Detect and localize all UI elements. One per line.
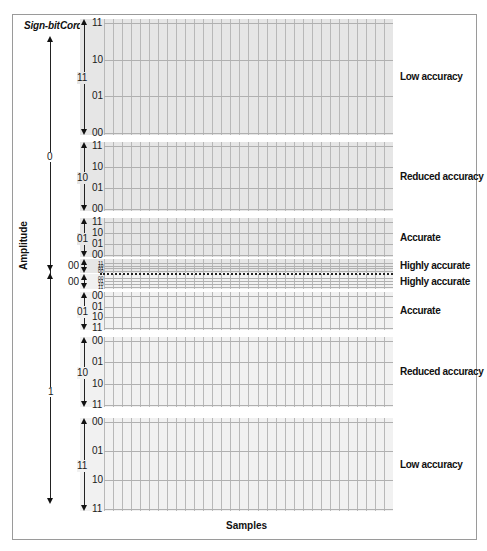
step-bit-label: 10 xyxy=(92,228,103,238)
step-bit-label: 11 xyxy=(92,400,102,410)
step-bit-label: 10 xyxy=(92,55,103,65)
step-line xyxy=(104,328,393,329)
accuracy-label: Highly accurate xyxy=(400,260,470,271)
step-bit-label: 11 xyxy=(92,323,102,333)
accuracy-label: Low accuracy xyxy=(400,459,463,470)
section-grid xyxy=(104,19,393,135)
step-line xyxy=(104,480,393,481)
step-line xyxy=(104,146,393,147)
section-grid xyxy=(104,292,393,330)
samples-axis-label: Samples xyxy=(226,520,267,531)
chord-bit-label: 10 xyxy=(77,367,88,379)
step-line xyxy=(104,451,393,452)
step-line xyxy=(104,362,393,363)
section-grid xyxy=(104,218,393,257)
chord-up-arrow-icon xyxy=(81,418,87,424)
zero-line xyxy=(100,273,393,275)
chord-up-arrow-icon xyxy=(81,218,87,224)
sign-value-1: 1 xyxy=(48,387,54,397)
step-line xyxy=(104,509,393,510)
step-line xyxy=(104,266,393,267)
step-bit-label: 11 xyxy=(92,217,102,227)
chord-down-arrow-icon xyxy=(81,505,87,511)
accuracy-label: Low accuracy xyxy=(400,71,463,82)
chord-down-arrow-icon xyxy=(81,267,87,273)
chord-bit-label: 00 xyxy=(68,277,79,287)
section-grid xyxy=(104,337,393,407)
step-line xyxy=(104,284,393,285)
step-bit-label: 00 xyxy=(92,128,103,138)
chord-down-arrow-icon xyxy=(81,251,87,257)
chord-up-arrow-icon xyxy=(81,142,87,148)
step-line xyxy=(104,307,393,308)
step-bit-label: 10 xyxy=(92,312,103,322)
step-bit-label: 10 xyxy=(92,379,103,389)
step-line xyxy=(104,384,393,385)
chord-bit-label: 11 xyxy=(77,460,87,472)
step-bit-label: 10 xyxy=(92,162,103,172)
step-line xyxy=(104,278,393,279)
step-bit-label: 00 xyxy=(92,336,103,346)
step-line xyxy=(104,244,393,245)
chord-up-arrow-icon xyxy=(81,259,87,265)
accuracy-label: Accurate xyxy=(400,232,440,243)
step-bit-label: 01 xyxy=(92,91,103,101)
chord-bit-label: 10 xyxy=(77,172,88,184)
sign-value-0: 0 xyxy=(47,152,53,162)
step-line xyxy=(104,268,393,269)
step-line xyxy=(104,167,393,168)
step-line xyxy=(104,296,393,297)
step-bit-label: 01 xyxy=(92,446,103,456)
sign-midpoint-down-arrow-icon xyxy=(47,265,53,271)
step-bit-label: 00 xyxy=(92,417,103,427)
step-line xyxy=(104,255,393,256)
step-line xyxy=(104,422,393,423)
chord-bit-label: 11 xyxy=(77,72,87,84)
accuracy-label: Highly accurate xyxy=(400,276,470,287)
step-bit-label: 00 xyxy=(92,204,103,214)
step-bit-label: 01 xyxy=(92,183,103,193)
chord-bit-label: 00 xyxy=(68,261,79,271)
chord-up-arrow-icon xyxy=(81,292,87,298)
step-line xyxy=(104,60,393,61)
step-line xyxy=(104,233,393,234)
accuracy-label: Reduced accuracy xyxy=(400,366,484,377)
step-line xyxy=(104,133,393,134)
step-bit-label: 11 xyxy=(92,504,102,514)
step-line xyxy=(104,317,393,318)
section-grid xyxy=(104,142,393,211)
accuracy-label: Accurate xyxy=(400,305,440,316)
chord-down-arrow-icon xyxy=(81,205,87,211)
step-bit-label: 00 xyxy=(92,291,103,301)
step-line xyxy=(104,287,393,288)
step-bit-label: 01 xyxy=(92,239,103,249)
chord-up-arrow-icon xyxy=(81,274,87,280)
chord-down-arrow-icon xyxy=(81,129,87,135)
chord-down-arrow-icon xyxy=(81,401,87,407)
chord-bit-label: 01 xyxy=(77,306,88,318)
amplitude-axis-label: Amplitude xyxy=(18,221,29,270)
chord-bit-label: 01 xyxy=(77,233,88,245)
step-line xyxy=(104,271,393,272)
step-line xyxy=(104,405,393,406)
step-line xyxy=(104,209,393,210)
step-line xyxy=(104,188,393,189)
step-line xyxy=(104,222,393,223)
step-line xyxy=(104,23,393,24)
chord-up-arrow-icon xyxy=(81,337,87,343)
sign-axis-bottom-arrow-icon xyxy=(47,498,53,504)
chord-down-arrow-icon xyxy=(81,283,87,289)
section-grid xyxy=(104,418,393,511)
step-line xyxy=(104,341,393,342)
accuracy-label: Reduced accuracy xyxy=(400,171,484,182)
step-bit-label: 01 xyxy=(92,357,103,367)
sign-bit-header: Sign-bit xyxy=(24,20,60,31)
step-line xyxy=(104,263,393,264)
chord-down-arrow-icon xyxy=(81,324,87,330)
chord-up-arrow-icon xyxy=(81,19,87,25)
sign-midpoint-up-arrow-icon xyxy=(47,273,53,279)
step-bit-label: 11 xyxy=(92,18,102,28)
step-bit-label: 11 xyxy=(92,141,102,151)
step-line xyxy=(104,281,393,282)
step-bit-label: 10 xyxy=(92,475,103,485)
